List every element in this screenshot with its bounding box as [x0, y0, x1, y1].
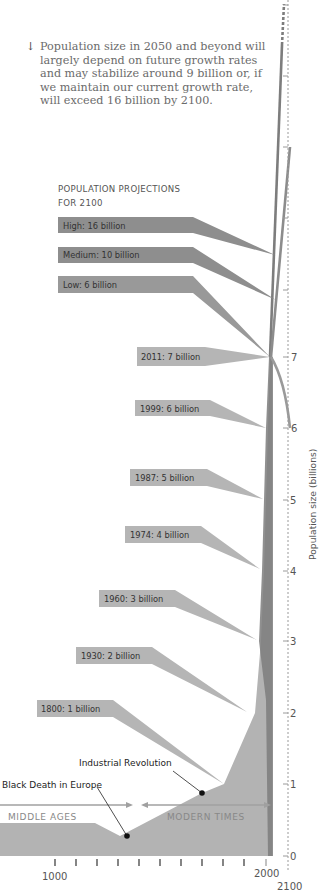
x-ticks	[55, 859, 266, 866]
middle-ages-arrowhead-icon	[126, 802, 133, 808]
milestone-1987-label: 1987: 5 billion	[135, 473, 194, 483]
y-axis-label: Population size (billions)	[307, 449, 318, 560]
intro-note: ↓ Population size in 2050 and beyond wil…	[40, 40, 270, 108]
x-tick-1000: 1000	[42, 871, 67, 882]
y-ticks	[283, 5, 288, 856]
y-tick-3: 3	[290, 636, 296, 647]
y-tick-7: 7	[291, 352, 297, 363]
milestone-1999-label: 1999: 6 billion	[140, 404, 199, 414]
high-projection-dotted	[282, 4, 284, 45]
milestone-1974-label: 1974: 4 billion	[130, 530, 189, 540]
y-tick-0: 0	[290, 851, 296, 862]
milestone-2011-label: 2011: 7 billion	[141, 352, 200, 362]
x-tick-2000: 2000	[254, 868, 279, 879]
projections-heading-line1: POPULATION PROJECTIONS	[58, 182, 180, 196]
low-projection-line	[271, 357, 290, 428]
arrow-down-icon: ↓	[26, 40, 35, 54]
industrial-pointer	[173, 771, 202, 793]
y-tick-1: 1	[290, 779, 296, 790]
y-tick-6: 6	[291, 423, 297, 434]
middle-ages-label: MIDDLE AGES	[8, 812, 77, 822]
projections-heading: POPULATION PROJECTIONS FOR 2100	[58, 182, 180, 210]
modern-times-label: MODERN TIMES	[167, 812, 245, 822]
milestone-1800-label: 1800: 1 billion	[41, 704, 100, 714]
black-death-dot	[124, 833, 130, 839]
high-projection-label: High: 16 billion	[63, 221, 126, 231]
projections-heading-line2: FOR 2100	[58, 196, 180, 210]
x-tick-2100: 2100	[277, 881, 302, 892]
y-tick-2: 2	[290, 708, 296, 719]
population-chart: 0 1 2 3 4 5 6 7 Population size (billion…	[0, 0, 334, 893]
y-tick-5: 5	[290, 495, 296, 506]
y-tick-4: 4	[290, 566, 296, 577]
milestone-1960-label: 1960: 3 billion	[104, 594, 163, 604]
modern-times-arrowhead-left-icon	[141, 802, 148, 808]
medium-projection-label: Medium: 10 billion	[63, 250, 140, 260]
intro-text: Population size in 2050 and beyond will …	[40, 40, 265, 107]
industrial-revolution-label: Industrial Revolution	[79, 758, 172, 768]
milestone-1930-label: 1930: 2 billion	[81, 651, 140, 661]
black-death-label: Black Death in Europe	[2, 780, 102, 790]
low-projection-label: Low: 6 billion	[63, 280, 117, 290]
industrial-dot	[199, 790, 205, 796]
